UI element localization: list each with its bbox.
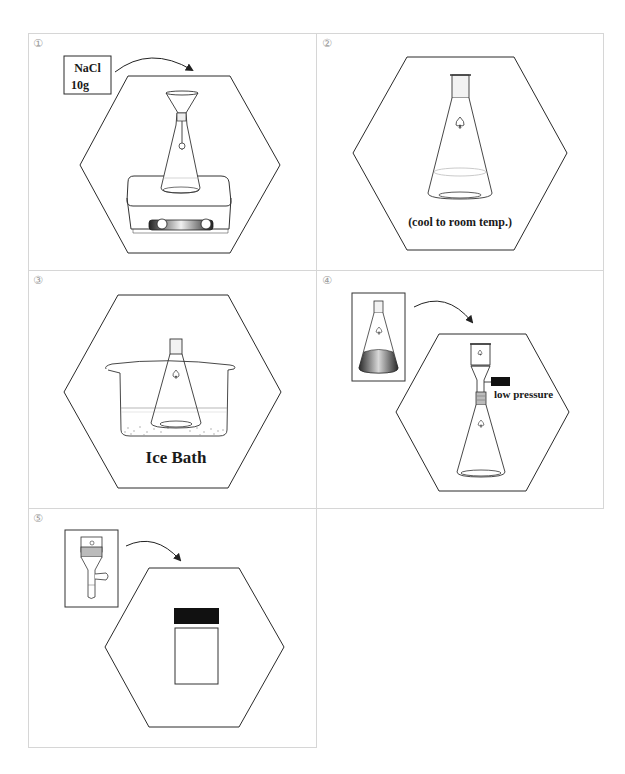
- panel-4-caption: low pressure: [494, 388, 553, 400]
- arrow-icon: [126, 541, 180, 560]
- flask-with-liquid-icon: [352, 293, 405, 381]
- reagent-name: NaCl: [74, 61, 101, 75]
- beaker-icon: [106, 361, 235, 436]
- reagent-amount: 10g: [71, 78, 89, 92]
- stoppered-flask-icon: [428, 75, 492, 199]
- funnel-icon: [166, 91, 198, 150]
- arrow-icon: [115, 58, 192, 72]
- fritted-funnel-icon: [470, 344, 491, 395]
- panel-4: low pressure: [352, 293, 569, 491]
- panel-2-caption: (cool to room temp.): [408, 215, 512, 229]
- procedure-diagram: NaCl 10g: [0, 0, 625, 774]
- fritted-funnel-icon: [65, 530, 118, 607]
- panel-1: NaCl 10g: [64, 56, 280, 253]
- filter-flask-icon: [457, 392, 505, 477]
- panel-5: [65, 530, 284, 727]
- arrow-icon: [414, 301, 472, 322]
- panel-3: Ice Bath: [64, 295, 281, 488]
- panel-3-caption: Ice Bath: [146, 448, 207, 467]
- sample-vial-icon: [174, 608, 219, 684]
- vacuum-hose-icon: [484, 377, 510, 386]
- panel-2: (cool to room temp.): [353, 57, 567, 250]
- erlenmeyer-flask-icon: [161, 113, 200, 193]
- reagent-box: NaCl 10g: [64, 56, 111, 94]
